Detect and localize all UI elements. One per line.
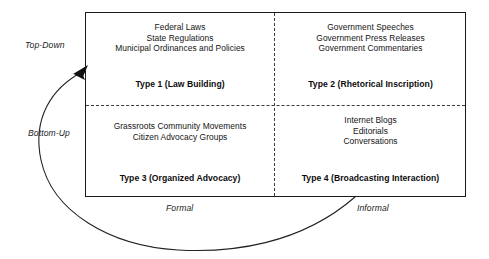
- quadrant-item: Editorials: [343, 126, 397, 137]
- quadrant-type-2-items: Government Speeches Government Press Rel…: [316, 22, 424, 54]
- matrix-box: Federal Laws State Regulations Municipal…: [85, 12, 466, 197]
- quadrant-type-3: Grassroots Community Movements Citizen A…: [86, 106, 274, 197]
- quadrant-type-4: Internet Blogs Editorials Conversations …: [275, 106, 466, 197]
- quadrant-type-3-label: Type 3 (Organized Advocacy): [86, 173, 274, 183]
- axis-label-bottom-up: Bottom-Up: [28, 128, 70, 138]
- axis-label-informal: Informal: [357, 203, 389, 213]
- quadrant-type-3-items: Grassroots Community Movements Citizen A…: [114, 121, 247, 142]
- quadrant-item: Government Speeches: [316, 22, 424, 33]
- quadrant-type-4-items: Internet Blogs Editorials Conversations: [343, 115, 397, 147]
- axis-label-top-down: Top-Down: [25, 40, 65, 50]
- quadrant-item: Internet Blogs: [343, 115, 397, 126]
- quadrant-diagram: Top-Down Bottom-Up Formal Informal Feder…: [0, 0, 489, 259]
- quadrant-item: Municipal Ordinances and Policies: [115, 43, 245, 54]
- quadrant-item: Federal Laws: [115, 22, 245, 33]
- quadrant-type-4-label: Type 4 (Broadcasting Interaction): [275, 173, 466, 183]
- quadrant-item: State Regulations: [115, 33, 245, 44]
- quadrant-type-1-label: Type 1 (Law Building): [86, 79, 274, 89]
- quadrant-type-1-items: Federal Laws State Regulations Municipal…: [115, 22, 245, 54]
- quadrant-item: Government Press Releases: [316, 33, 424, 44]
- quadrant-type-2: Government Speeches Government Press Rel…: [275, 13, 466, 105]
- quadrant-type-1: Federal Laws State Regulations Municipal…: [86, 13, 274, 105]
- quadrant-type-2-label: Type 2 (Rhetorical Inscription): [275, 79, 466, 89]
- quadrant-item: Grassroots Community Movements: [114, 121, 247, 132]
- quadrant-item: Government Commentaries: [316, 43, 424, 54]
- axis-label-formal: Formal: [166, 203, 193, 213]
- quadrant-item: Citizen Advocacy Groups: [114, 132, 247, 143]
- quadrant-item: Conversations: [343, 136, 397, 147]
